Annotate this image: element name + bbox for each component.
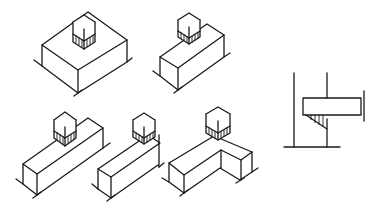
strip-footing-center-drawing — [153, 13, 230, 93]
corbel-section-drawing — [284, 73, 364, 147]
strip-footing-end-drawing — [16, 112, 110, 198]
strip-footing-end-offset-drawing — [92, 113, 164, 201]
isolated-footing-drawing — [34, 12, 132, 96]
corner-footing-drawing — [162, 107, 258, 196]
footing-diagram — [0, 0, 378, 219]
